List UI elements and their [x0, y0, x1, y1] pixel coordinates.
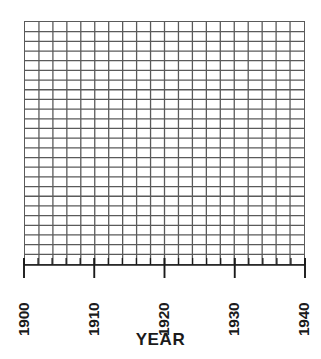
x-tick-label-1900: 1900	[16, 276, 32, 336]
x-axis-ticks	[24, 258, 305, 278]
plot-area	[24, 21, 305, 265]
x-tick-label-1920: 1920	[156, 276, 172, 336]
x-tick-label-1940: 1940	[296, 276, 312, 336]
x-tick-label-1930: 1930	[226, 276, 242, 336]
x-tick-label-1910: 1910	[86, 276, 102, 336]
grid-lines	[25, 22, 304, 264]
year-axis-chart-figure: 1900 1910 1920 1930 1940 YEAR	[0, 0, 321, 359]
x-axis-title: YEAR	[0, 330, 321, 350]
